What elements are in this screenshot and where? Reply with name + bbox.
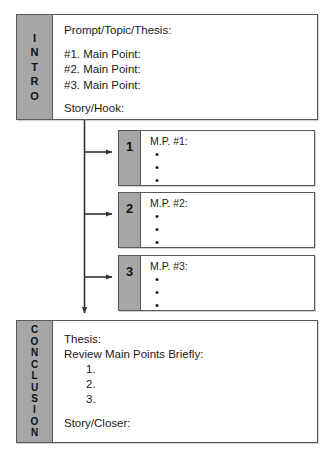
main-point-body-3[interactable]: M.P. #3: (141, 256, 314, 310)
main-point-content-1: M.P. #1: (150, 135, 311, 185)
bullet-item (150, 223, 311, 236)
bullet-item (150, 161, 311, 174)
intro-line-story-hook: Story/Hook: (64, 101, 313, 117)
main-point-title-3: M.P. #3: (150, 260, 311, 273)
conclusion-line-thesis: Thesis: (64, 332, 313, 347)
conclusion-tab-label: C O N C L U S I O N (31, 324, 39, 438)
conclusion-line-review: Review Main Points Briefly: (64, 347, 313, 362)
main-point-box-1[interactable]: 1 M.P. #1: (118, 130, 315, 186)
intro-line-main-point-1: #1. Main Point: (64, 47, 313, 63)
main-point-bullets-3 (150, 273, 311, 310)
outline-diagram-canvas: I N T R O Prompt/Topic/Thesis: #1. Main … (0, 0, 334, 456)
main-point-title-1: M.P. #1: (150, 135, 311, 148)
main-point-title-2: M.P. #2: (150, 197, 311, 210)
intro-line-main-point-3: #3. Main Point: (64, 78, 313, 94)
main-point-number-3: 3 (126, 264, 133, 279)
conclusion-tab: C O N C L U S I O N (17, 321, 53, 442)
conclusion-section[interactable]: C O N C L U S I O N Thesis: Review Main … (16, 320, 318, 443)
main-point-number-tab-1: 1 (119, 131, 141, 185)
main-point-body-1[interactable]: M.P. #1: (141, 131, 314, 185)
intro-body[interactable]: Prompt/Topic/Thesis: #1. Main Point: #2.… (53, 15, 317, 119)
main-point-box-2[interactable]: 2 M.P. #2: (118, 192, 315, 248)
bullet-item (150, 299, 311, 310)
main-point-number-tab-2: 2 (119, 193, 141, 247)
conclusion-review-item-3: 3. (64, 392, 313, 407)
main-point-bullets-2 (150, 210, 311, 247)
intro-line-main-point-2: #2. Main Point: (64, 62, 313, 78)
intro-line-prompt: Prompt/Topic/Thesis: (64, 23, 313, 39)
bullet-item (150, 148, 311, 161)
intro-line-list: Prompt/Topic/Thesis: #1. Main Point: #2.… (64, 23, 313, 117)
main-point-body-2[interactable]: M.P. #2: (141, 193, 314, 247)
bullet-item (150, 236, 311, 247)
intro-tab: I N T R O (17, 15, 53, 119)
bullet-item (150, 174, 311, 185)
main-point-number-1: 1 (126, 139, 133, 154)
conclusion-line-story-closer: Story/Closer: (64, 416, 313, 431)
bullet-item (150, 210, 311, 223)
conclusion-line-list: Thesis: Review Main Points Briefly: 1. 2… (64, 332, 313, 431)
main-point-number-tab-3: 3 (119, 256, 141, 310)
intro-tab-label: I N T R O (30, 31, 39, 104)
bullet-item (150, 273, 311, 286)
main-point-content-2: M.P. #2: (150, 197, 311, 247)
main-point-number-2: 2 (126, 201, 133, 216)
main-point-box-3[interactable]: 3 M.P. #3: (118, 255, 315, 311)
conclusion-review-item-1: 1. (64, 362, 313, 377)
bullet-item (150, 286, 311, 299)
main-point-bullets-1 (150, 148, 311, 185)
conclusion-review-item-2: 2. (64, 377, 313, 392)
conclusion-body[interactable]: Thesis: Review Main Points Briefly: 1. 2… (53, 321, 317, 442)
main-point-content-3: M.P. #3: (150, 260, 311, 310)
intro-section[interactable]: I N T R O Prompt/Topic/Thesis: #1. Main … (16, 14, 318, 120)
